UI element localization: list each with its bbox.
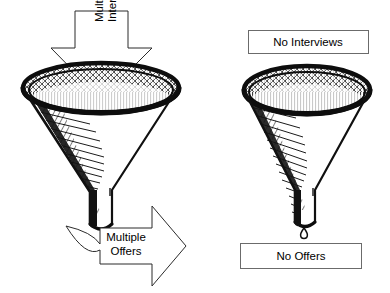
no-offers-box: No Offers [241,244,362,269]
no-offers-label: No Offers [277,250,326,262]
no-interviews-label: No Interviews [273,36,343,48]
no-interviews-box: No Interviews [249,31,369,54]
left-funnel-spout-shadow [89,190,97,228]
outflow-arrow-label-line2: Offers [110,245,141,257]
inflow-arrow-label-line1: Multiple [93,0,105,22]
outflow-arrow-label-line1: Multiple [106,231,146,243]
diagram-canvas: Multiple Interviews [0,0,390,293]
diagram-root: Multiple Interviews [0,0,390,293]
inflow-arrow-label-line2: Interviews [106,0,118,22]
right-funnel-spout-shadow [294,190,301,226]
